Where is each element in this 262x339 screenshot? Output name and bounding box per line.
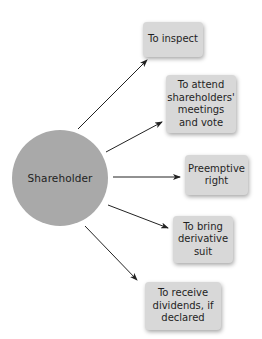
arrow-to-dividends bbox=[85, 226, 137, 280]
arrow-to-inspect bbox=[78, 60, 147, 129]
right-label: To receive dividends, if declared bbox=[151, 287, 215, 325]
right-box-inspect: To inspect bbox=[143, 22, 203, 57]
right-label: Preemptive right bbox=[188, 163, 245, 188]
right-box-derivative-suit: To bring derivative suit bbox=[173, 216, 233, 263]
right-label: To bring derivative suit bbox=[178, 221, 228, 259]
shareholder-label: Shareholder bbox=[28, 172, 93, 184]
right-box-preemptive: Preemptive right bbox=[185, 155, 248, 195]
arrow-to-attend bbox=[106, 122, 162, 152]
right-label: To inspect bbox=[148, 33, 198, 46]
shareholder-rights-diagram: Shareholder To inspect To attend shareho… bbox=[0, 0, 262, 339]
arrow-to-derivative bbox=[108, 205, 168, 228]
right-box-dividends: To receive dividends, if declared bbox=[145, 282, 221, 330]
right-label: To attend shareholders' meetings and vot… bbox=[167, 79, 235, 129]
right-box-attend-vote: To attend shareholders' meetings and vot… bbox=[166, 75, 236, 133]
shareholder-node: Shareholder bbox=[12, 130, 108, 226]
